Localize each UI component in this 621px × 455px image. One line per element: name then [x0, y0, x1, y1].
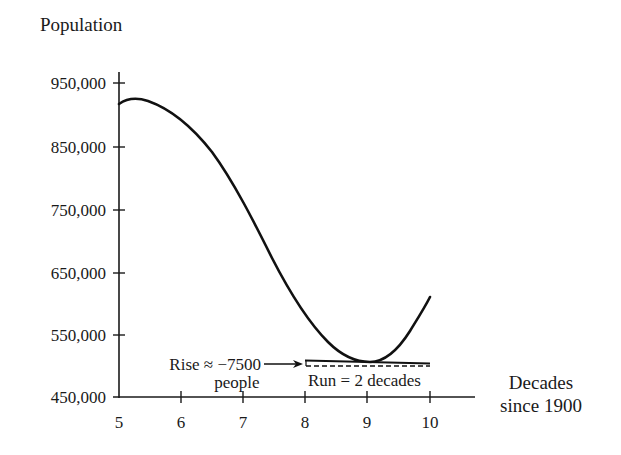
y-tick-label: 550,000: [51, 326, 106, 345]
rise-annotation-unit: people: [214, 373, 259, 392]
population-chart: Population 950,000 850,000 750,000 650,0…: [0, 0, 621, 455]
x-tick-label: 6: [177, 413, 186, 432]
run-annotation: Run = 2 decades: [308, 371, 421, 390]
y-tick-labels: 950,000 850,000 750,000 650,000 550,000 …: [51, 74, 106, 407]
y-tick-label: 450,000: [51, 388, 106, 407]
y-tick-label: 650,000: [51, 264, 106, 283]
x-tick-label: 5: [115, 413, 124, 432]
y-axis-title: Population: [40, 14, 123, 35]
x-axis-title-line1: Decades: [509, 372, 573, 393]
y-tick-label: 750,000: [51, 201, 106, 220]
y-tick-label: 850,000: [51, 138, 106, 157]
rise-annotation: Rise ≈ −7500: [169, 355, 261, 374]
y-tick-label: 950,000: [51, 74, 106, 93]
x-tick-label: 8: [301, 413, 310, 432]
x-tick-label: 7: [239, 413, 248, 432]
x-tick-label: 10: [422, 413, 439, 432]
x-tick-labels: 5 6 7 8 9 10: [115, 413, 439, 432]
population-curve: [119, 99, 430, 362]
x-tick-label: 9: [363, 413, 372, 432]
x-axis-title-line2: since 1900: [500, 395, 582, 416]
